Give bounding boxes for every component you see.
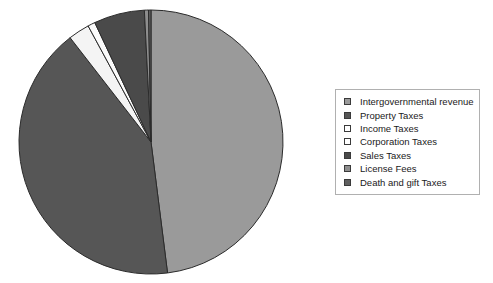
legend-item-label: Corporation Taxes bbox=[360, 136, 437, 147]
pie-chart-figure: Intergovernmental revenueProperty TaxesI… bbox=[0, 0, 493, 283]
legend-item-label: Intergovernmental revenue bbox=[360, 96, 474, 107]
legend-item[interactable]: Income Taxes bbox=[341, 122, 475, 135]
legend-item-label: Death and gift Taxes bbox=[360, 177, 446, 188]
legend-swatch-icon bbox=[344, 152, 351, 159]
pie-slice-group bbox=[19, 10, 283, 274]
legend-swatch-icon bbox=[344, 125, 351, 132]
legend-item[interactable]: Property Taxes bbox=[341, 108, 475, 121]
legend-swatch-icon bbox=[344, 165, 351, 172]
legend-item[interactable]: Intergovernmental revenue bbox=[341, 95, 475, 108]
pie-chart-graphic bbox=[0, 0, 300, 283]
legend-swatch-icon bbox=[344, 179, 351, 186]
legend-swatch-icon bbox=[344, 138, 351, 145]
chart-legend: Intergovernmental revenueProperty TaxesI… bbox=[335, 89, 480, 195]
legend-swatch-icon bbox=[344, 98, 351, 105]
legend-item[interactable]: Corporation Taxes bbox=[341, 135, 475, 148]
legend-item[interactable]: Death and gift Taxes bbox=[341, 175, 475, 188]
legend-item-label: Property Taxes bbox=[360, 110, 423, 121]
legend-item[interactable]: License Fees bbox=[341, 162, 475, 175]
legend-item-label: Income Taxes bbox=[360, 123, 418, 134]
legend-swatch-icon bbox=[344, 112, 351, 119]
legend-item[interactable]: Sales Taxes bbox=[341, 149, 475, 162]
legend-item-label: License Fees bbox=[360, 163, 417, 174]
pie-slice[interactable] bbox=[151, 10, 283, 273]
legend-item-label: Sales Taxes bbox=[360, 150, 411, 161]
